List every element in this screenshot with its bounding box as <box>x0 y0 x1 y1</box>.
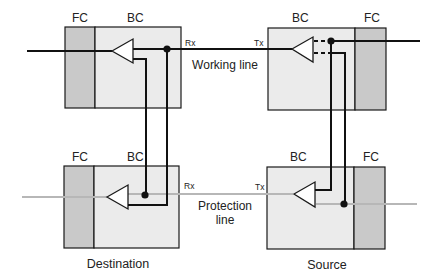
destination-caption: Destination <box>87 257 150 271</box>
protection-line-label-2: line <box>216 213 235 227</box>
fc-label: FC <box>72 11 88 25</box>
source-protection-module: BC FC Tx <box>255 150 385 249</box>
bc-label: BC <box>292 11 309 25</box>
bc-label: BC <box>127 150 144 164</box>
bc-block <box>267 167 354 249</box>
bc-label: BC <box>290 150 307 164</box>
rx-port-label: Rx <box>185 38 196 48</box>
bc-block <box>95 27 181 108</box>
protection-switching-diagram: FC BC Rx BC FC Tx FC BC Rx BC FC Tx <box>0 0 443 280</box>
splitter-node-icon <box>141 191 148 198</box>
fc-block <box>65 27 95 108</box>
source-working-module: BC FC Tx <box>254 11 386 110</box>
working-line-label: Working line <box>192 58 258 72</box>
fc-block <box>64 166 94 248</box>
fc-label: FC <box>364 11 380 25</box>
source-caption: Source <box>307 258 347 272</box>
fc-block <box>354 167 385 249</box>
tx-port-label: Tx <box>254 38 264 48</box>
splitter-node-icon <box>340 200 347 207</box>
bc-label: BC <box>127 11 144 25</box>
fc-label: FC <box>72 150 88 164</box>
tx-port-label: Tx <box>255 182 265 192</box>
rx-port-label: Rx <box>184 181 195 191</box>
splitter-node-icon <box>327 37 334 44</box>
fc-label: FC <box>363 150 379 164</box>
destination-protection-module: FC BC Rx <box>64 150 195 248</box>
protection-line-label: Protection <box>198 199 252 213</box>
splitter-node-icon <box>163 45 170 52</box>
